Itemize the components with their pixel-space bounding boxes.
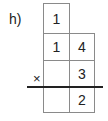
problem-label: h)	[9, 11, 21, 27]
result-tens-cell[interactable]	[43, 87, 70, 113]
times-operator: ×	[33, 71, 41, 86]
result-ones-cell[interactable]: 2	[69, 87, 95, 113]
multiplicand-ones-cell: 4	[69, 33, 95, 61]
multiplier-ones-cell: 3	[69, 60, 95, 88]
sum-rule-line	[27, 86, 103, 88]
multiplicand-tens-cell: 1	[43, 33, 70, 61]
carry-cell: 1	[43, 3, 70, 34]
multiplier-tens-cell	[43, 60, 70, 88]
